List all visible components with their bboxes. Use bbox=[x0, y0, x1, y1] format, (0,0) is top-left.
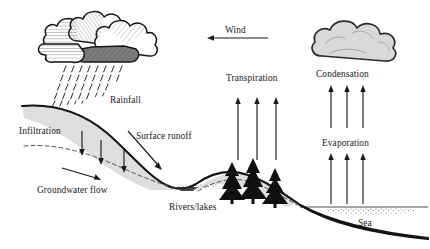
evaporation-arrows bbox=[328, 153, 365, 204]
label-infiltration: Infiltration bbox=[19, 126, 61, 136]
condensation-arrows bbox=[328, 85, 365, 128]
diagram-canvas: Rainfall Infiltration Surface runoff Gro… bbox=[0, 0, 430, 249]
label-surface-runoff: Surface runoff bbox=[136, 131, 192, 141]
label-condensation: Condensation bbox=[316, 69, 369, 79]
conifer-tree-icon bbox=[219, 158, 288, 208]
label-evaporation: Evaporation bbox=[322, 138, 369, 148]
water-cycle-diagram: Rainfall Infiltration Surface runoff Gro… bbox=[0, 0, 430, 249]
label-sea: Sea bbox=[358, 218, 373, 228]
label-rainfall: Rainfall bbox=[110, 95, 141, 105]
label-transpiration: Transpiration bbox=[226, 73, 278, 83]
label-groundwater-flow: Groundwater flow bbox=[37, 185, 108, 195]
label-wind: Wind bbox=[225, 25, 246, 35]
transpiration-arrows bbox=[235, 97, 278, 160]
rain-cloud-icon bbox=[39, 12, 158, 63]
groundwater-flow-arrow bbox=[62, 168, 101, 180]
label-rivers-lakes: Rivers/lakes bbox=[169, 202, 217, 212]
wind-arrow bbox=[207, 35, 268, 40]
cloud-icon bbox=[312, 21, 395, 61]
